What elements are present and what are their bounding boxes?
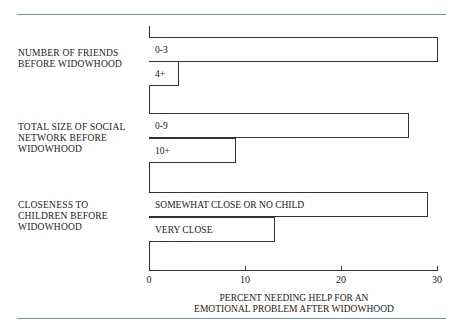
bar: 10+	[149, 138, 236, 163]
x-tick-mark	[341, 266, 342, 270]
bar-label: 4+	[155, 69, 165, 79]
x-axis	[149, 270, 438, 271]
bar: VERY CLOSE	[149, 217, 275, 242]
x-tick-label: 30	[432, 274, 442, 285]
bar-label: SOMEWHAT CLOSE OR NO CHILD	[155, 200, 304, 210]
bar: SOMEWHAT CLOSE OR NO CHILD	[149, 192, 428, 217]
bar-label: 0-9	[155, 121, 168, 131]
x-tick-label: 0	[147, 274, 152, 285]
bar-label: 0-3	[155, 45, 168, 55]
top-rule	[17, 14, 446, 15]
bar: 4+	[149, 61, 179, 86]
group-label-network: TOTAL SIZE OF SOCIAL NETWORK BEFORE WIDO…	[18, 122, 125, 155]
bar: 0-9	[149, 113, 409, 138]
x-tick-mark	[245, 266, 246, 270]
bar-label: VERY CLOSE	[155, 225, 212, 235]
bottom-rule	[17, 318, 446, 319]
x-tick-label: 20	[336, 274, 346, 285]
bar-label: 10+	[155, 146, 170, 156]
group-label-closeness: CLOSENESS TO CHILDREN BEFORE WIDOWHOOD	[18, 200, 108, 233]
group-label-friends: NUMBER OF FRIENDS BEFORE WIDOWHOOD	[18, 48, 122, 70]
bar: 0-3	[149, 37, 438, 62]
x-tick-mark	[437, 266, 438, 270]
x-axis-label: PERCENT NEEDING HELP FOR AN EMOTIONAL PR…	[149, 293, 439, 315]
x-tick-label: 10	[240, 274, 250, 285]
